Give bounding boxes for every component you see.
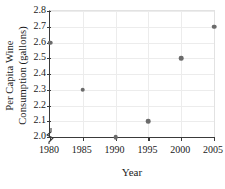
y-axis-tick-mark — [47, 11, 51, 12]
y-axis-tick-mark — [47, 121, 51, 122]
gridlines — [50, 11, 214, 137]
gridline-horizontal — [50, 90, 214, 91]
scatter-chart-figure: Per Capita Wine Consumption (gallons) 2.… — [0, 0, 225, 189]
y-axis-tick-mark — [47, 58, 51, 59]
data-point — [81, 87, 86, 92]
y-axis-title-line-2: Consumption (gallons) — [16, 26, 29, 125]
y-axis-tick-mark — [47, 106, 51, 107]
x-axis-tick-mark — [214, 137, 215, 141]
x-axis-tick-label: 1985 — [72, 144, 92, 156]
x-axis-tick-label: 1995 — [137, 144, 157, 156]
gridline-vertical — [181, 11, 182, 137]
gridline-vertical — [83, 11, 84, 137]
data-point — [179, 56, 184, 61]
y-axis-tick-mark — [47, 27, 51, 28]
plot-area — [49, 10, 215, 138]
gridline-horizontal — [50, 106, 214, 107]
y-axis-tick-mark — [47, 90, 51, 91]
y-axis-title: Per Capita Wine Consumption (gallons) — [4, 26, 29, 125]
y-axis-tick-label: 2.8 — [28, 5, 46, 15]
y-axis-tick-label: 2.3 — [28, 84, 46, 94]
data-point — [212, 24, 217, 29]
x-axis-tick-label: 2005 — [203, 144, 223, 156]
x-axis-tick-label: 1990 — [105, 144, 125, 156]
gridline-horizontal — [50, 43, 214, 44]
x-axis-tick-labels: 198019851990199520002005 — [49, 144, 215, 158]
y-axis-tick-label: 2.1 — [28, 115, 46, 125]
y-axis-tick-label: 2.5 — [28, 52, 46, 62]
y-axis-title-line-1: Per Capita Wine — [4, 26, 17, 125]
gridline-horizontal — [50, 58, 214, 59]
x-axis-tick-mark — [148, 137, 149, 141]
y-axis-tick-label: 2.7 — [28, 21, 46, 31]
y-axis-tick-label: 2.4 — [28, 68, 46, 78]
gridline-horizontal — [50, 11, 214, 12]
y-axis-tick-mark — [47, 74, 51, 75]
y-axis-tick-label: 2.2 — [28, 100, 46, 110]
axis-break-icon — [44, 128, 56, 144]
x-axis-tick-label: 2000 — [170, 144, 190, 156]
y-axis-tick-label: 2.6 — [28, 37, 46, 47]
x-axis-tick-label: 1980 — [39, 144, 59, 156]
gridline-horizontal — [50, 27, 214, 28]
data-point — [146, 119, 151, 124]
x-axis-tick-mark — [181, 137, 182, 141]
data-point — [113, 135, 118, 140]
gridline-vertical — [116, 11, 117, 137]
gridline-horizontal — [50, 121, 214, 122]
x-axis-title: Year — [49, 166, 215, 179]
x-axis-tick-mark — [83, 137, 84, 141]
gridline-horizontal — [50, 74, 214, 75]
data-point — [48, 40, 53, 45]
y-axis-tick-labels: 2.02.12.22.32.42.52.62.72.8 — [28, 10, 46, 138]
